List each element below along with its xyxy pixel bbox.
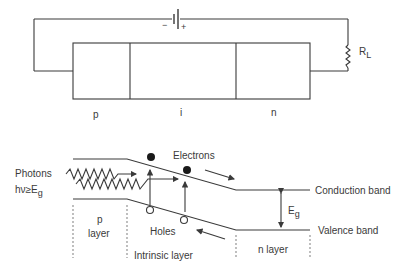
photon-wave-2 xyxy=(76,179,178,189)
hole-drift-arrow xyxy=(197,230,225,239)
band-gap-label: Eg xyxy=(288,205,300,219)
photon-condition-label: hν≥Eg xyxy=(15,184,43,198)
region-label-i: i xyxy=(180,107,182,118)
battery-minus-label: − xyxy=(162,20,167,30)
electron-1 xyxy=(147,153,155,161)
pin-photodiode-diagram: − + RL p i n Photons hν≥Eg Electrons Hol… xyxy=(0,0,401,276)
photon-wave-1 xyxy=(66,169,136,179)
resistor-icon xyxy=(346,45,350,68)
intrinsic-layer-label: Intrinsic layer xyxy=(134,250,194,261)
region-label-n: n xyxy=(271,107,277,118)
region-label-p: p xyxy=(93,109,99,120)
electron-2 xyxy=(183,166,191,174)
photons-label: Photons xyxy=(15,168,52,179)
p-layer-label-line2: layer xyxy=(88,228,110,239)
holes-label: Holes xyxy=(150,226,176,237)
p-layer-label-line1: p xyxy=(97,214,103,225)
circuit xyxy=(34,9,350,99)
electrons-label: Electrons xyxy=(173,150,215,161)
device-box xyxy=(73,43,310,99)
conduction-band-label: Conduction band xyxy=(315,185,391,196)
electron-drift-arrow xyxy=(205,170,234,179)
valence-band-label: Valence band xyxy=(318,225,378,236)
battery-plus-label: + xyxy=(181,22,186,32)
hole-1 xyxy=(147,207,154,214)
valence-band-line xyxy=(73,199,310,230)
resistor-label: RL xyxy=(359,46,371,60)
n-layer-label: n layer xyxy=(258,244,289,255)
conduction-band-line xyxy=(73,159,310,190)
hole-2 xyxy=(181,217,188,224)
